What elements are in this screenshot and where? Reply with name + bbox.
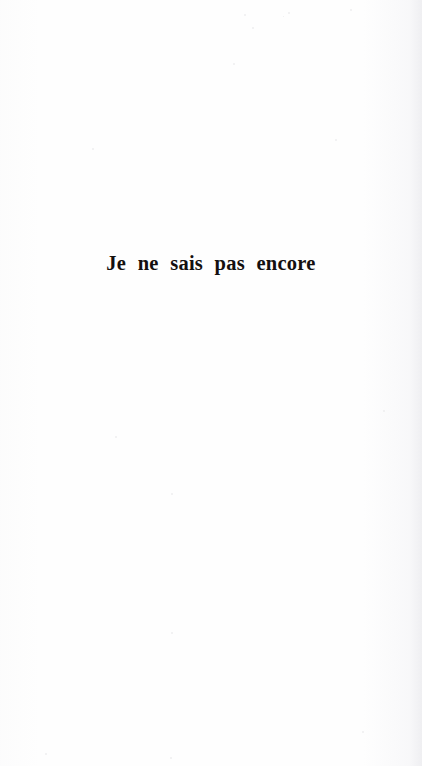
part-title: Je ne sais pas encore [106,252,315,275]
scan-speck [171,632,173,634]
scan-speck [288,12,290,14]
scan-speck [115,436,117,438]
scan-speck [171,493,173,495]
scan-speck [45,753,47,755]
scan-speck [362,731,364,733]
paper-texture-overlay [0,0,422,766]
scan-speck [244,14,246,16]
scan-speck [92,148,94,150]
scan-speck [350,9,352,11]
scan-speck [170,757,172,759]
part-title-block: Je ne sais pas encore [0,252,422,275]
scan-speck [383,410,385,412]
scan-speck [233,63,235,65]
scan-speck [283,16,284,17]
scan-speck [252,27,254,29]
scanned-page: Je ne sais pas encore [0,0,422,766]
scan-speck [335,139,337,141]
